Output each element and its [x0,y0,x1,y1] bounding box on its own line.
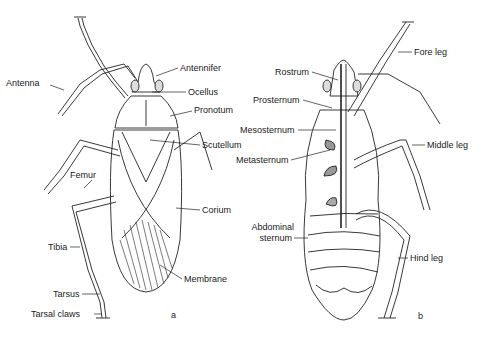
panel-letter-b: b [418,311,423,321]
label-fore-leg: Fore leg [414,47,447,57]
label-membrane: Membrane [184,274,227,284]
panel-letter-a: a [171,310,176,320]
label-tibia: Tibia [48,242,67,252]
label-antenna: Antenna [6,78,40,88]
label-sternum: sternum [244,233,292,243]
label-corium: Corium [202,205,231,215]
label-tarsus: Tarsus [53,289,80,299]
label-pronotum: Pronotum [194,105,233,115]
label-middle-leg: Middle leg [427,140,468,150]
label-rostrum: Rostrum [275,67,309,77]
ventral-view-bug [304,22,440,320]
label-abdominal: Abdominal [244,222,294,232]
label-mesosternum: Mesosternum [240,125,295,135]
label-metasternum: Metasternum [236,155,289,165]
label-hind-leg: Hind leg [410,253,443,263]
label-ocellus: Ocellus [188,87,218,97]
label-antennifer: Antennifer [180,63,221,73]
label-femur: Femur [70,170,96,180]
label-tarsal-claws: Tarsal claws [31,309,80,319]
insect-diagram [0,0,482,337]
label-scutellum: Scutellum [202,140,242,150]
label-prosternum: Prosternum [253,95,300,105]
leader-lines-a [50,68,200,314]
